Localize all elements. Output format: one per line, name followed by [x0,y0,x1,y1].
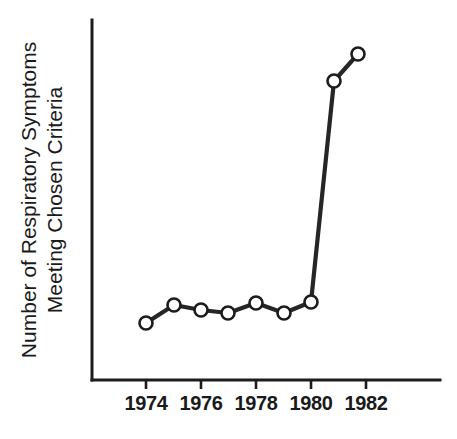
x-axis-label-1982: 1982 [345,392,388,414]
x-axis-label-1978: 1978 [235,392,278,414]
data-series-group: 1974: 2.11975: 31976: 2.751977: 2.61978:… [140,48,365,330]
y-axis-title: Number of Respiratory Symptoms Meeting C… [17,42,66,358]
respiratory-symptoms-line-chart: 1974: 2.11975: 31976: 2.751977: 2.61978:… [0,0,457,439]
data-point-1979: 1979: 2.6 [278,307,291,320]
x-axis-label-1980: 1980 [290,392,333,414]
y-axis-title-line-2: Meeting Chosen Criteria [43,86,66,313]
data-point-1980: 1980: 3.2 [305,296,318,309]
x-axis-label-1974: 1974 [125,392,169,414]
data-point-1978: 1978: 3.1 [250,297,263,310]
x-axis-tick-labels: 19741976197819801982 [125,392,388,414]
data-point-1974: 1974: 2.1 [140,317,153,330]
series-markers: 1974: 2.11975: 31976: 2.751977: 2.61978:… [140,48,365,330]
series-line-respiratory-symptoms [146,54,358,323]
y-axis-title-line-1: Number of Respiratory Symptoms [17,42,40,358]
data-point-1977: 1977: 2.6 [222,307,235,320]
chart-canvas: 1974: 2.11975: 31976: 2.751977: 2.61978:… [0,0,457,439]
data-point-1982: 1982: 15.4 [352,48,365,61]
data-point-1976: 1976: 2.75 [195,304,208,317]
data-point-1975: 1975: 3 [168,299,181,312]
data-point-1981: 1981: 14 [328,75,341,88]
x-axis-label-1976: 1976 [180,392,223,414]
